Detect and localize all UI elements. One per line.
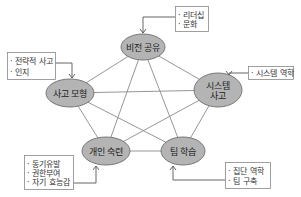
nodes: 비전 공유사고 모형시스템사고개인 숙련팀 학습	[46, 34, 242, 165]
annotation-item: · 인지	[10, 67, 29, 77]
node-label: 비전 공유	[126, 43, 161, 53]
node-label: 팀 학습	[170, 146, 197, 157]
node-label: 개인 숙련	[89, 147, 124, 157]
edge-vision-mastery	[106, 47, 143, 151]
annotation-item: · 리더십	[178, 11, 204, 20]
node-mastery: 개인 숙련	[82, 137, 130, 165]
node-label: 시스템	[206, 80, 230, 91]
learning-organization-diagram: · 리더십· 문화· 전략적 사고· 인지· 시스템 역학· 동기유발· 권한부…	[0, 0, 301, 197]
vision-notes: · 리더십· 문화	[176, 7, 209, 32]
annotation-item: · 시스템 역학	[251, 68, 295, 78]
annotation-item: · 권한부여	[27, 168, 60, 178]
node-label: 사고 모형	[53, 89, 88, 99]
mental-notes: · 전략적 사고· 인지	[8, 53, 56, 80]
node-vision: 비전 공유	[121, 34, 165, 60]
systems-notes: · 시스템 역학	[249, 67, 295, 80]
node-team: 팀 학습	[161, 137, 205, 165]
node-systems: 시스템사고	[194, 73, 242, 107]
annotation-item: · 팀 구축	[228, 176, 257, 186]
mastery-notes: · 동기유발· 권한부여· 자기 효능감	[25, 156, 74, 190]
annotation-item: · 전략적 사고	[10, 56, 53, 66]
annotation-item: · 자기 효능감	[27, 177, 71, 187]
annotation-item: · 동기유발	[27, 159, 61, 169]
node-mental: 사고 모형	[46, 79, 94, 107]
team-notes: · 집단 역학· 팀 구축	[226, 163, 271, 189]
edge-vision-team	[143, 47, 183, 151]
annotation-item: · 문화	[178, 20, 198, 29]
annotation-item: · 집단 역학	[228, 166, 265, 176]
node-label: 사고	[210, 91, 226, 101]
